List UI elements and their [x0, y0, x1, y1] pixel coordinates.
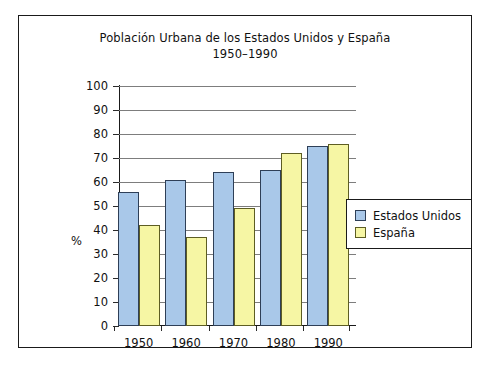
- chart-legend: Estados Unidos España: [346, 199, 472, 249]
- bar-group: [213, 86, 255, 326]
- bar-group: [165, 86, 207, 326]
- plot-area: 0102030405060708090100 19501960197019801…: [119, 86, 356, 326]
- chart-title-line2: 1950–1990: [19, 46, 471, 62]
- bar-estados-unidos-1980: [260, 170, 281, 326]
- y-axis-label: %: [71, 234, 82, 248]
- chart-title: Población Urbana de los Estados Unidos y…: [19, 30, 471, 62]
- y-axis-tick-label: 80: [93, 127, 108, 141]
- bar-estados-unidos-1960: [165, 180, 186, 326]
- x-axis-tick-label: 1950: [124, 336, 153, 350]
- x-axis-tick: [209, 326, 210, 331]
- bar-group: [307, 86, 349, 326]
- x-axis-tick: [349, 326, 350, 331]
- y-axis-tick-label: 60: [93, 175, 108, 189]
- bar-estados-unidos-1990: [307, 146, 328, 326]
- bar-espana-1970: [234, 208, 255, 326]
- y-axis-tick-label: 50: [93, 199, 108, 213]
- x-axis-tick-label: 1960: [171, 336, 200, 350]
- x-axis-tick: [161, 326, 162, 331]
- x-axis-tick-label: 1980: [266, 336, 295, 350]
- x-axis-tick-label: 1990: [314, 336, 343, 350]
- y-axis-tick-label: 40: [93, 223, 108, 237]
- bar-estados-unidos-1970: [213, 172, 234, 326]
- y-axis-tick-label: 100: [86, 79, 108, 93]
- x-axis-tick-label: 1970: [219, 336, 248, 350]
- y-axis-tick-label: 30: [93, 247, 108, 261]
- legend-label-espana: España: [373, 226, 415, 240]
- y-axis-tick-label: 10: [93, 295, 108, 309]
- y-axis-tick-label: 70: [93, 151, 108, 165]
- x-axis-tick: [114, 326, 115, 331]
- legend-label-estados-unidos: Estados Unidos: [373, 209, 461, 223]
- bar-espana-1960: [186, 237, 207, 326]
- y-axis-tick-label: 90: [93, 103, 108, 117]
- bar-espana-1950: [139, 225, 160, 326]
- legend-swatch-icon-estados-unidos: [355, 210, 366, 221]
- legend-swatch-icon-espana: [355, 227, 366, 238]
- chart-title-line1: Población Urbana de los Estados Unidos y…: [100, 31, 391, 45]
- legend-item-espana: España: [355, 224, 461, 241]
- y-axis-tick-label: 20: [93, 271, 108, 285]
- chart-frame: Población Urbana de los Estados Unidos y…: [18, 15, 472, 348]
- bar-group: [118, 86, 160, 326]
- y-axis-tick-label: 0: [101, 319, 108, 333]
- x-axis-tick: [303, 326, 304, 331]
- legend-item-estados-unidos: Estados Unidos: [355, 207, 461, 224]
- x-axis-tick: [256, 326, 257, 331]
- bar-group: [260, 86, 302, 326]
- bar-estados-unidos-1950: [118, 192, 139, 326]
- bar-espana-1980: [281, 153, 302, 326]
